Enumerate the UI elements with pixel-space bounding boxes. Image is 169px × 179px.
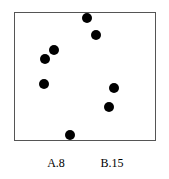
- dot: [49, 45, 59, 55]
- option-b[interactable]: B.15: [100, 156, 123, 171]
- dot: [40, 54, 50, 64]
- option-a[interactable]: A.8: [47, 156, 65, 171]
- dot: [65, 130, 75, 140]
- dot: [109, 83, 119, 93]
- dot: [104, 102, 114, 112]
- dot: [39, 79, 49, 89]
- diagram-frame: [14, 12, 156, 141]
- dot: [82, 13, 92, 23]
- dot: [91, 30, 101, 40]
